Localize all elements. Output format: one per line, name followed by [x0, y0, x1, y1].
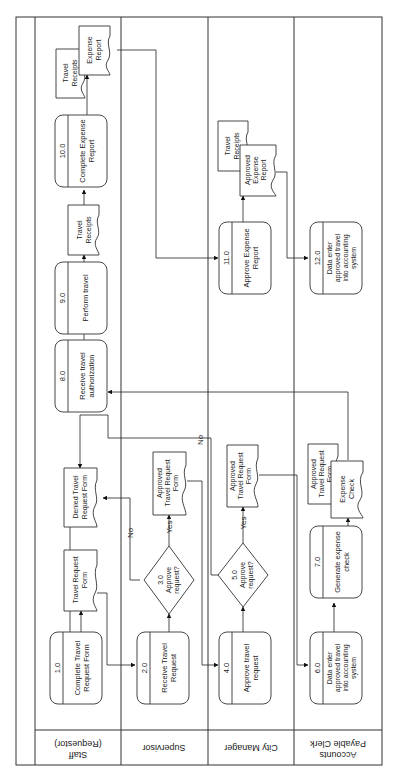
lane-label-accounts-payable: AccountsPayable Clerk — [309, 739, 366, 760]
connectors — [70, 50, 348, 665]
document-denied-travel-request: Denied TravelRequest Form — [64, 468, 97, 527]
svg-text:Perform travel: Perform travel — [81, 274, 90, 321]
svg-text:1.0: 1.0 — [53, 663, 62, 673]
svg-text:Yes: Yes — [239, 516, 248, 529]
svg-text:8.0: 8.0 — [58, 371, 67, 381]
svg-text:4.0: 4.0 — [222, 663, 231, 673]
process-1: 1.0 Complete TravelRequest Form — [50, 632, 102, 704]
swimlane-flowchart: Staff(Requestor) Supervisor City Manager… — [0, 0, 396, 776]
document-approved-expense-report: ApprovedExpenseReport — [240, 145, 276, 196]
process-2: 2.0 Receive TravelRequest — [137, 632, 189, 704]
process-12: 12.0 Data enterapproved travelinto accou… — [310, 222, 362, 294]
process-9: 9.0 Perform travel — [55, 262, 107, 334]
document-travel-request-form: Travel RequestForm — [64, 550, 97, 611]
process-8: 8.0 Receive travelauthorization — [55, 340, 107, 412]
svg-text:11.0: 11.0 — [222, 251, 231, 265]
svg-text:Yes: Yes — [165, 520, 174, 533]
svg-text:12.0: 12.0 — [313, 251, 322, 266]
svg-text:City Manager: City Manager — [224, 743, 278, 753]
lane-label-staff: Staff(Requestor) — [54, 739, 102, 760]
document-travel-receipts-1: TravelReceipts — [68, 205, 99, 255]
svg-text:7.0: 7.0 — [313, 557, 322, 567]
svg-text:Staff(Requestor): Staff(Requestor) — [54, 739, 102, 760]
process-10: 10.0 Complete ExpenseReport — [55, 115, 107, 187]
svg-text:Complete TravelRequest Form: Complete TravelRequest Form — [73, 640, 91, 695]
document-expense-report: ExpenseReport — [79, 26, 110, 75]
svg-text:Supervisor: Supervisor — [142, 743, 185, 753]
svg-text:6.0: 6.0 — [313, 663, 322, 673]
svg-text:No: No — [126, 527, 135, 538]
svg-text:No: No — [196, 434, 205, 445]
process-7: 7.0 Generate expensecheck — [310, 526, 362, 598]
svg-text:9.0: 9.0 — [58, 293, 67, 303]
svg-text:AccountsPayable Clerk: AccountsPayable Clerk — [309, 739, 366, 760]
svg-text:2.0: 2.0 — [140, 663, 149, 673]
process-11: 11.0 Approve ExpenseReport — [219, 222, 271, 294]
svg-text:10.0: 10.0 — [58, 144, 67, 159]
document-expense-check: ExpenseCheck — [331, 461, 363, 518]
process-6: 6.0 Data enterapproved travelinto accoun… — [310, 632, 362, 704]
svg-text:Receive travelauthorization: Receive travelauthorization — [78, 352, 96, 400]
document-approved-trf-supervisor: ApprovedTravel RequestForm — [153, 452, 186, 515]
lane-label-city-manager: City Manager — [224, 743, 278, 753]
decision-5: 5.0Approverequest? — [218, 543, 268, 607]
svg-text:Denied TravelRequest Form: Denied TravelRequest Form — [72, 475, 89, 520]
svg-text:ExpenseReport: ExpenseReport — [86, 36, 103, 63]
process-4: 4.0 Approve travelrequest — [219, 632, 271, 704]
decision-3: 3.0Approverequest? — [144, 546, 194, 614]
document-approved-trf-city-manager: ApprovedTravel RequestForm — [227, 445, 258, 507]
lane-label-supervisor: Supervisor — [142, 743, 185, 753]
